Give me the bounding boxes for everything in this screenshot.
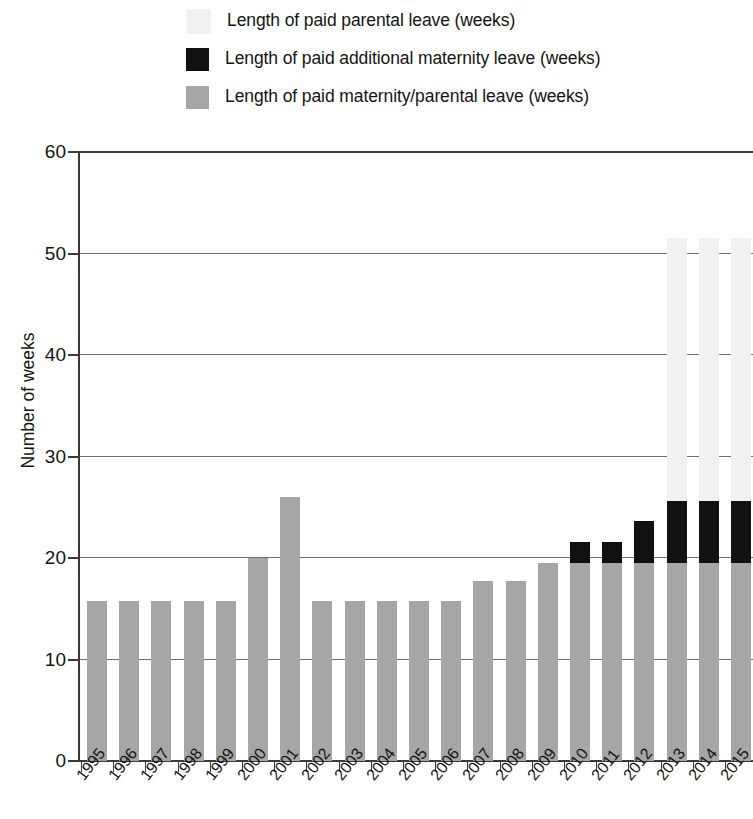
bar-segment [731, 238, 751, 501]
y-axis-tick-20 [68, 557, 80, 559]
bar-2006 [441, 0, 461, 819]
y-axis-tick-40 [68, 354, 80, 356]
y-axis-tick-label-0: 0 [22, 750, 66, 772]
bar-segment [119, 601, 139, 761]
y-axis-tick-60 [68, 151, 80, 153]
bar-2009 [538, 0, 558, 819]
bar-segment [409, 601, 429, 761]
bar-segment [312, 601, 332, 761]
bar-segment [151, 601, 171, 761]
bar-segment [216, 601, 236, 761]
y-axis-tick-label-40: 40 [22, 344, 66, 366]
bar-2007 [473, 0, 493, 819]
bar-segment [248, 558, 268, 761]
y-axis-tick-10 [68, 659, 80, 661]
bar-segment [699, 501, 719, 563]
y-axis-tick-label-50: 50 [22, 243, 66, 265]
bar-2000 [248, 0, 268, 819]
bar-2005 [409, 0, 429, 819]
bar-segment [280, 497, 300, 761]
bar-segment [699, 563, 719, 761]
bar-2013 [667, 0, 687, 819]
bar-segment [441, 601, 461, 761]
y-axis-tick-30 [68, 456, 80, 458]
y-axis-tick-label-30: 30 [22, 446, 66, 468]
y-axis-tick-labels: 0102030405060 [0, 0, 66, 819]
bar-segment [699, 238, 719, 501]
bar-segment [87, 601, 107, 761]
bar-segment [634, 521, 654, 563]
bar-1995 [87, 0, 107, 819]
bar-1998 [184, 0, 204, 819]
bar-segment [667, 501, 687, 563]
bar-segment [345, 601, 365, 761]
bar-2010 [570, 0, 590, 819]
bar-2002 [312, 0, 332, 819]
bar-segment [667, 563, 687, 761]
bar-2012 [634, 0, 654, 819]
bar-chart: Number of weeks 0102030405060 1995199619… [0, 0, 753, 819]
bar-2001 [280, 0, 300, 819]
x-axis-tick-labels: 1995199619971998199920002001200220032004… [78, 773, 753, 819]
y-axis-tick-label-60: 60 [22, 141, 66, 163]
bar-1999 [216, 0, 236, 819]
y-axis-tick-50 [68, 253, 80, 255]
bar-segment [667, 238, 687, 501]
bar-segment [377, 601, 397, 761]
bar-segment [602, 542, 622, 563]
bar-segment [184, 601, 204, 761]
bar-2014 [699, 0, 719, 819]
bar-segment [538, 563, 558, 761]
bar-series-container [78, 0, 753, 819]
y-axis-tick-0 [68, 760, 80, 762]
bar-segment [506, 581, 526, 761]
bar-2003 [345, 0, 365, 819]
bar-2008 [506, 0, 526, 819]
bar-2011 [602, 0, 622, 819]
bar-2004 [377, 0, 397, 819]
bar-segment [570, 563, 590, 761]
bar-1996 [119, 0, 139, 819]
bar-1997 [151, 0, 171, 819]
bar-segment [634, 563, 654, 761]
bar-segment [731, 501, 751, 563]
bar-segment [731, 563, 751, 761]
bar-segment [473, 581, 493, 761]
y-axis-tick-label-10: 10 [22, 649, 66, 671]
bar-2015 [731, 0, 751, 819]
y-axis-tick-label-20: 20 [22, 547, 66, 569]
bar-segment [570, 542, 590, 563]
bar-segment [602, 563, 622, 761]
